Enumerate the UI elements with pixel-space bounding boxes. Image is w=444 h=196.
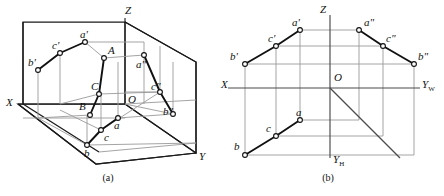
point-label-c: c (266, 122, 271, 134)
point-label-c-prime: c' (268, 32, 275, 44)
vertex-a-prime (83, 40, 88, 45)
vertex-b-prime (243, 62, 248, 67)
vertex-C (97, 92, 102, 97)
axis-label-yh: YH (333, 153, 344, 168)
vertex-c (99, 128, 104, 133)
point-label-c-double-prime: c" (386, 32, 396, 44)
vertex-a (298, 118, 303, 123)
point-label-A: A (108, 44, 115, 56)
vertex-a-prime (298, 28, 303, 33)
axis-label-yw-subscript: W (428, 85, 435, 93)
vertex-a-double-prime (142, 53, 147, 58)
point-label-C: C (91, 80, 98, 92)
axis-label-y: Y (199, 150, 205, 162)
vertex-B (88, 113, 93, 118)
point-label-b: b (234, 140, 240, 152)
axis-bisector-45 (330, 88, 400, 158)
point-label-a-prime: a' (292, 16, 300, 28)
vertex-c-prime (58, 51, 63, 56)
vertex-c-prime (274, 44, 279, 49)
axis-label-yw: YW (422, 78, 435, 93)
vertex-c (274, 134, 279, 139)
point-label-a: a (114, 119, 120, 131)
point-label-b-double-prime: b" (418, 50, 428, 62)
point-label-b-prime: b' (230, 50, 238, 62)
point-label-b-double-prime: b" (163, 105, 173, 117)
point-label-a-double-prime: a" (364, 16, 374, 28)
axis-label-z: Z (320, 3, 326, 15)
edge-frontal-projection (38, 42, 85, 70)
point-label-c-double-prime: c" (151, 80, 161, 92)
point-label-c-prime: c' (52, 39, 59, 51)
edge-horizontal-projection (245, 120, 300, 155)
construction-lines (23, 42, 196, 145)
point-label-O: O (128, 93, 136, 105)
point-label-c: c (104, 131, 109, 143)
panel-a-drawing (0, 0, 222, 196)
axis-label-yh-subscript: H (339, 160, 344, 168)
axis-label-x: X (221, 78, 228, 90)
axis-label-x: X (6, 96, 13, 108)
caption-b: (b) (308, 172, 348, 183)
vertex-b-prime (36, 68, 41, 73)
point-label-b-prime: b' (28, 56, 36, 68)
point-label-B: B (79, 100, 86, 112)
figure-root: Z X Y a' c' b' A a" C c" B O b" a c b (0, 0, 444, 196)
vertex-c-double-prime (381, 44, 386, 49)
vertex-b-double-prime (412, 62, 417, 67)
point-label-a-prime: a' (80, 28, 88, 40)
point-label-b: b (84, 147, 90, 159)
point-label-O: O (334, 71, 342, 83)
point-label-a: a (296, 106, 302, 118)
point-label-a-double-prime: a" (136, 58, 146, 70)
vertex-A (102, 56, 107, 61)
vertex-b (243, 153, 248, 158)
caption-a: (a) (88, 172, 128, 183)
axis-label-z: Z (125, 4, 131, 16)
vertex-a-double-prime (357, 28, 362, 33)
